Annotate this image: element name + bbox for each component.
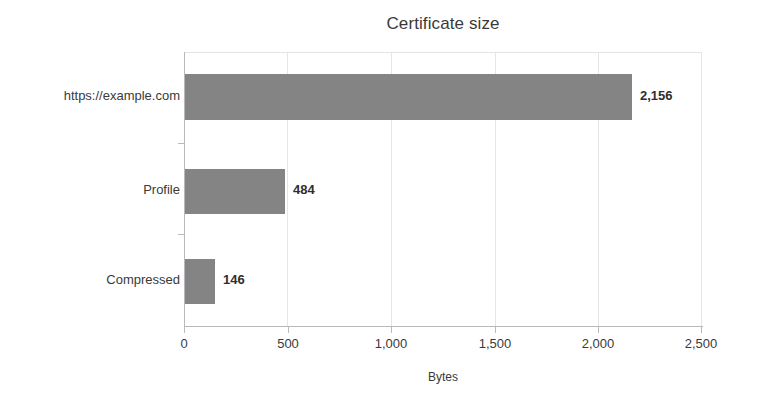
bar-value-label-2: 146 — [223, 272, 245, 287]
certificate-size-chart: Certificate size https://example.com Pro… — [0, 0, 763, 402]
gridline-2500 — [701, 53, 702, 326]
bar-https-example-com[interactable] — [185, 74, 632, 120]
category-label-1: Profile — [143, 182, 180, 197]
x-tick-label-2000: 2,000 — [582, 336, 615, 351]
bar-compressed[interactable] — [185, 259, 215, 304]
category-label-2: Compressed — [106, 272, 180, 287]
x-axis-tick-2000 — [598, 327, 599, 333]
bar-profile[interactable] — [185, 169, 285, 214]
x-axis-tick-2500 — [701, 327, 702, 333]
x-tick-label-500: 500 — [277, 336, 299, 351]
x-axis-tick-500 — [288, 327, 289, 333]
bar-value-label-0: 2,156 — [640, 88, 673, 103]
bar-value-label-1: 484 — [293, 182, 315, 197]
x-axis-title: Bytes — [184, 370, 702, 384]
x-axis-tick-1000 — [391, 327, 392, 333]
plot-area — [184, 52, 702, 326]
y-axis-tick-1 — [178, 143, 184, 144]
y-axis-line — [184, 52, 185, 327]
x-tick-label-1000: 1,000 — [375, 336, 408, 351]
chart-title: Certificate size — [184, 14, 702, 34]
x-tick-label-0: 0 — [180, 336, 187, 351]
x-tick-label-1500: 1,500 — [479, 336, 512, 351]
x-tick-label-2500: 2,500 — [685, 336, 718, 351]
category-label-0: https://example.com — [64, 88, 180, 103]
x-axis-tick-1500 — [495, 327, 496, 333]
x-axis-line — [184, 326, 703, 327]
y-axis-tick-2 — [178, 234, 184, 235]
x-axis-tick-0 — [184, 327, 185, 333]
